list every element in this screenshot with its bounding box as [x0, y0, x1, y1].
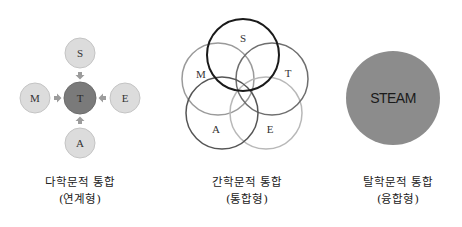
node-a: A [65, 128, 95, 158]
arrow-left-icon [99, 94, 107, 103]
venn-circle-a [186, 77, 258, 149]
arrow-down-icon [76, 72, 85, 80]
node-m: M [20, 83, 50, 113]
node-e-label: E [122, 92, 129, 104]
caption-multidisciplinary-title: 다학문적 통합 [15, 174, 145, 191]
caption-interdisciplinary-subtitle: (통합형) [182, 191, 312, 208]
transdisciplinary-diagram: STEAM [346, 51, 440, 145]
multidisciplinary-diagram: S M E A T [20, 38, 140, 158]
node-t-label: T [77, 92, 84, 104]
node-e: E [110, 83, 140, 113]
caption-interdisciplinary: 간학문적 통합 (통합형) [182, 174, 312, 208]
node-s: S [65, 38, 95, 68]
node-a-label: A [76, 137, 84, 149]
arrow-right-icon [54, 94, 62, 103]
venn-label-s: S [240, 32, 246, 44]
arrow-up-icon [76, 117, 85, 125]
venn-circle-m [182, 43, 254, 115]
node-t-center: T [64, 82, 96, 114]
venn-circle-t [236, 43, 308, 115]
node-m-label: M [30, 92, 40, 104]
caption-transdisciplinary-title: 탈학문적 통합 [333, 174, 462, 191]
caption-transdisciplinary-subtitle: (융합형) [333, 191, 462, 208]
venn-circle-e [230, 77, 302, 149]
steam-label: STEAM [370, 90, 416, 106]
venn-label-e: E [267, 123, 274, 135]
caption-multidisciplinary-subtitle: (연계형) [15, 191, 145, 208]
venn-label-a: A [212, 123, 220, 135]
venn-label-t: T [285, 67, 292, 79]
caption-multidisciplinary: 다학문적 통합 (연계형) [15, 174, 145, 208]
caption-transdisciplinary: 탈학문적 통합 (융합형) [333, 174, 462, 208]
venn-circle-s [207, 19, 279, 91]
node-s-label: S [77, 47, 83, 59]
venn-label-m: M [196, 68, 206, 80]
caption-interdisciplinary-title: 간학문적 통합 [182, 174, 312, 191]
